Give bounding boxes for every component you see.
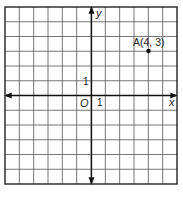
x-axis-left-arrow-icon [6, 94, 11, 98]
coordinate-plane: y x O 1 1 A(4, 3) [0, 0, 183, 197]
y-axis-down-arrow-icon [90, 178, 94, 183]
y-axis-label: y [95, 7, 103, 19]
x-axis-label: x [168, 96, 175, 108]
x-unit-label: 1 [97, 97, 103, 108]
origin-label: O [80, 97, 89, 109]
point-a-label: A(4, 3) [133, 36, 165, 48]
y-axis-up-arrow-icon [90, 8, 94, 13]
point-a [146, 49, 151, 54]
y-unit-label: 1 [83, 76, 89, 87]
